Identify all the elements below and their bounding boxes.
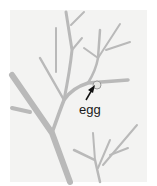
arrow-icon xyxy=(86,85,95,100)
illustration: egg xyxy=(0,0,157,186)
branches-drawing xyxy=(0,0,157,186)
egg-label: egg xyxy=(79,103,101,116)
